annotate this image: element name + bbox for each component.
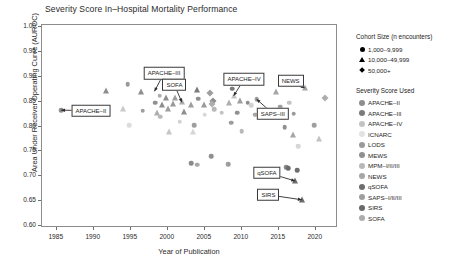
plot-panel: APACHE–IIAPACHE–IIIAPACHE–IVSOFANEWSSAPS… [41, 24, 337, 227]
x-tick-label: 2010 [221, 233, 261, 240]
x-tick-label: 2005 [184, 233, 224, 240]
color-legend-item[interactable]: SAPS–I/II/III [356, 192, 456, 203]
color-legend-item[interactable]: MPM–I/II/III [356, 161, 456, 172]
color-legend-item[interactable]: qSOFA [356, 182, 456, 193]
annotation-callout: APACHE–II [71, 104, 110, 117]
x-tick-mark [204, 227, 205, 230]
color-swatch-icon [356, 173, 368, 179]
diamond-marker-icon [356, 68, 368, 72]
annotation-callout: NEWS [278, 75, 304, 88]
annotation-callout: qSOFA [253, 166, 280, 179]
color-legend-title: Severity Score Used [356, 87, 456, 94]
annotation-callout: SIRS [257, 189, 279, 202]
x-tick-mark [278, 227, 279, 230]
color-swatch-icon [356, 121, 368, 127]
chart-root: Severity Score In–Hospital Mortality Per… [0, 0, 458, 267]
y-tick-label: 0.65 [6, 196, 36, 203]
color-legend-label: APACHE–II [368, 99, 400, 106]
color-legend-label: ICNARC [368, 131, 392, 138]
x-tick-label: 2020 [295, 233, 335, 240]
x-tick-label: 1995 [110, 233, 150, 240]
color-swatch-icon [356, 131, 368, 137]
color-legend: APACHE–IIAPACHE–IIIAPACHE–IVICNARCLODSME… [356, 98, 456, 224]
color-legend-item[interactable]: MEWS [356, 150, 456, 161]
size-legend-item[interactable]: 50,000+ [356, 65, 456, 76]
color-legend-block: Severity Score Used APACHE–IIAPACHE–IIIA… [356, 87, 456, 224]
color-legend-label: APACHE–III [368, 110, 402, 117]
annotation-callout: SOFA [162, 79, 186, 92]
color-legend-item[interactable]: SIRS [356, 203, 456, 214]
color-swatch-icon [356, 100, 368, 106]
size-legend-item[interactable]: 10,000–49,999 [356, 55, 456, 66]
y-tick-label: 0.60 [6, 221, 36, 228]
color-swatch-icon [356, 142, 368, 148]
x-tick-label: 1990 [73, 233, 113, 240]
x-tick-label: 1985 [36, 233, 76, 240]
color-legend-label: qSOFA [368, 183, 388, 190]
color-swatch-icon [356, 205, 368, 211]
color-legend-item[interactable]: LODS [356, 140, 456, 151]
size-legend-label: 50,000+ [368, 67, 391, 74]
color-legend-item[interactable]: APACHE–III [356, 108, 456, 119]
x-tick-mark [241, 227, 242, 230]
size-legend-label: 1,000–9,999 [368, 46, 402, 53]
size-legend-label: 10,000–49,999 [368, 56, 409, 63]
legend: Cohort Size (n encounters) 1,000–9,99910… [356, 33, 456, 224]
color-legend-label: SIRS [368, 204, 382, 211]
color-legend-item[interactable]: APACHE–II [356, 98, 456, 109]
color-legend-label: MPM–I/II/III [368, 162, 400, 169]
size-legend: 1,000–9,99910,000–49,99950,000+ [356, 44, 456, 76]
x-tick-mark [56, 227, 57, 230]
plot-area: APACHE–IIAPACHE–IIIAPACHE–IVSOFANEWSSAPS… [42, 25, 336, 226]
x-tick-mark [93, 227, 94, 230]
chart-title: Severity Score In–Hospital Mortality Per… [45, 4, 238, 14]
color-swatch-icon [356, 152, 368, 158]
color-legend-label: MEWS [368, 152, 387, 159]
color-legend-label: SOFA [368, 215, 385, 222]
size-legend-title: Cohort Size (n encounters) [356, 33, 456, 40]
x-tick-mark [130, 227, 131, 230]
x-tick-label: 2015 [258, 233, 298, 240]
color-swatch-icon [356, 163, 368, 169]
x-axis-label: Year of Publication [41, 247, 337, 256]
color-legend-label: NEWS [368, 173, 387, 180]
color-legend-item[interactable]: SOFA [356, 213, 456, 224]
leader-lines [42, 25, 336, 226]
y-axis-label: Area Under Receiver Operating Curve (AUR… [30, 0, 39, 188]
color-legend-item[interactable]: NEWS [356, 171, 456, 182]
color-swatch-icon [356, 215, 368, 221]
color-swatch-icon [356, 184, 368, 190]
color-legend-item[interactable]: APACHE–IV [356, 119, 456, 130]
annotation-callout: APACHE–IV [223, 73, 264, 86]
color-legend-label: APACHE–IV [368, 120, 402, 127]
color-legend-label: LODS [368, 141, 385, 148]
x-tick-mark [167, 227, 168, 230]
color-legend-label: SAPS–I/II/III [368, 194, 402, 201]
x-tick-mark [315, 227, 316, 230]
triangle-marker-icon [356, 57, 368, 62]
color-swatch-icon [356, 194, 368, 200]
annotation-callout: APACHE–III [144, 67, 185, 80]
annotation-callout: SAPS–III [257, 107, 289, 120]
size-legend-item[interactable]: 1,000–9,999 [356, 44, 456, 55]
color-legend-item[interactable]: ICNARC [356, 129, 456, 140]
x-tick-label: 2000 [147, 233, 187, 240]
circle-marker-icon [356, 47, 368, 52]
color-swatch-icon [356, 110, 368, 116]
